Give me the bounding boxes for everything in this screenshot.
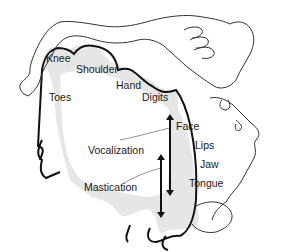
label-hand: Hand [116,80,141,91]
label-lips: Lips [195,140,214,151]
label-mastication: Mastication [84,182,137,193]
label-vocalization: Vocalization [88,145,144,156]
homunculus-diagram: Knee Shoulder Hand Digits Toes Face Lips… [0,0,281,252]
label-toes: Toes [49,92,71,103]
label-jaw: Jaw [200,159,219,170]
label-tongue: Tongue [189,178,223,189]
homunculus-illustration [0,0,281,252]
brace-outline [38,140,60,178]
label-shoulder: Shoulder [76,64,118,75]
label-digits: Digits [142,92,168,103]
homunculus-fingers [184,27,214,59]
label-face: Face [176,121,199,132]
label-knee: Knee [46,53,71,64]
